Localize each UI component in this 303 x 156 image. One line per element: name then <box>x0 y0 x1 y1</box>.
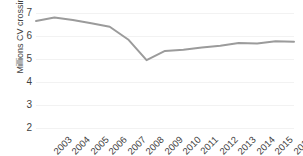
x-tick-label: 2014 <box>254 134 277 156</box>
y-tick-label: 4 <box>26 77 32 87</box>
x-tick-label: 2015 <box>272 134 295 156</box>
y-tick-label: 7 <box>26 8 32 18</box>
x-tick-label: 2013 <box>235 134 258 156</box>
y-tick-label: 3 <box>26 100 32 110</box>
plot-area <box>36 0 294 135</box>
x-tick-label: 2016 <box>291 134 303 156</box>
x-tick-label: 2005 <box>88 134 111 156</box>
series-line <box>36 0 294 135</box>
x-tick-label: 2011 <box>198 134 220 156</box>
x-tick-label: 2008 <box>143 134 166 156</box>
y-tick-label: 5 <box>26 54 32 64</box>
x-tick-label: 2003 <box>51 134 74 156</box>
series-polyline <box>36 18 294 61</box>
x-tick-label: 2007 <box>125 134 148 156</box>
y-axis-tick-labels: 234567 <box>18 0 32 156</box>
x-axis-tick-labels: 2003200420052006200720082009201020112012… <box>36 134 294 156</box>
x-tick-label: 2004 <box>70 134 93 156</box>
x-tick-label: 2012 <box>217 134 240 156</box>
line-chart: Millions CV crossing 234567 200320042005… <box>0 0 303 156</box>
y-tick-label: 6 <box>26 31 32 41</box>
x-tick-label: 2006 <box>106 134 129 156</box>
y-tick-label: 2 <box>26 123 32 133</box>
x-tick-label: 2009 <box>162 134 185 156</box>
